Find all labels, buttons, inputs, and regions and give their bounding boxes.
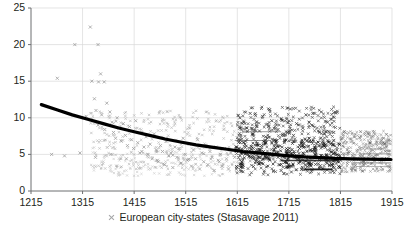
- x-axis-tick-label: 1415: [109, 196, 159, 208]
- y-axis-tick-label: 20: [0, 38, 25, 50]
- x-axis-tick-label: 1915: [367, 196, 406, 208]
- x-axis-tick-label: 1515: [161, 196, 211, 208]
- legend-label: European city-states (Stasavage 2011): [120, 211, 299, 223]
- x-axis-tick-label: 1315: [58, 196, 108, 208]
- x-axis-tick-label: 1615: [212, 196, 262, 208]
- x-axis-tick-label: 1715: [264, 196, 314, 208]
- scatter-chart: European city-states (Stasavage 2011) 05…: [0, 0, 406, 233]
- chart-legend: European city-states (Stasavage 2011): [0, 211, 406, 223]
- y-axis-tick-label: 10: [0, 111, 25, 123]
- y-axis-tick-label: 25: [0, 1, 25, 13]
- y-axis-tick-label: 0: [0, 184, 25, 196]
- x-axis-tick-label: 1215: [6, 196, 56, 208]
- y-axis-tick-label: 15: [0, 74, 25, 86]
- x-axis-tick-label: 1815: [315, 196, 365, 208]
- legend-marker-x-icon: [108, 214, 115, 221]
- y-axis-tick-label: 5: [0, 147, 25, 159]
